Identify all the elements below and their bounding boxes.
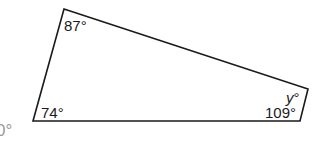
quadrilateral-diagram: 87° 74° 109° y° 0°	[0, 0, 327, 143]
angle-label-right-variable: y°	[285, 89, 300, 106]
degree-symbol: °	[294, 89, 300, 106]
angle-label-top-left: 87°	[64, 17, 87, 34]
angle-label-bottom-right: 109°	[265, 104, 296, 121]
angle-label-bottom-left: 74°	[41, 104, 64, 121]
clipped-angle-fragment: 0°	[0, 121, 12, 140]
